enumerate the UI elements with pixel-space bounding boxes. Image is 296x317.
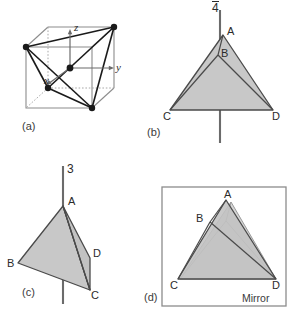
y-axis-label: y (116, 61, 121, 73)
symmetry-symbol-threefold: 3 (67, 162, 74, 176)
vertex-label-d-A: A (224, 188, 231, 200)
vertex-label-b-C: C (163, 110, 171, 122)
symmetry-symbol-fourbar-text: 4 (212, 1, 219, 15)
tetrahedron-b-svg (148, 0, 296, 158)
panel-d-mirror: A B C D Mirror (d) (148, 158, 296, 317)
panel-c-threefold-axis: 3 A B C D (c) (0, 158, 148, 317)
panel-a-cube-tetrahedron: z y x (a) (0, 0, 148, 158)
symmetry-symbol-fourbar: 4 (212, 1, 219, 15)
center-dot (67, 65, 74, 72)
panel-d-label: (d) (144, 291, 157, 303)
vertex-label-d-B: B (196, 212, 203, 224)
tetrahedron-d-svg (148, 158, 296, 317)
vertex-label-b-D: D (272, 110, 280, 122)
mirror-caption: Mirror (242, 292, 269, 304)
panel-b-label: (b) (147, 126, 160, 138)
z-axis-label: z (74, 21, 78, 33)
panel-a-label: (a) (22, 120, 35, 132)
panel-c-label: (c) (22, 286, 35, 298)
tetrahedron-face-original (178, 200, 276, 279)
vertex-label-d-C: C (170, 279, 178, 291)
vertex-label-c-A: A (68, 195, 75, 207)
panel-b-fourbar-axis: 4 A B C D (b) (148, 0, 296, 158)
x-axis-label: x (44, 74, 49, 86)
vertex-label-c-D: D (93, 247, 101, 259)
vertex-label-c-B: B (7, 257, 14, 269)
vertex-label-c-C: C (91, 289, 99, 301)
vertex-label-b-B: B (221, 47, 228, 59)
vertex-label-d-D: D (272, 279, 280, 291)
vertex-label-b-A: A (227, 25, 234, 37)
